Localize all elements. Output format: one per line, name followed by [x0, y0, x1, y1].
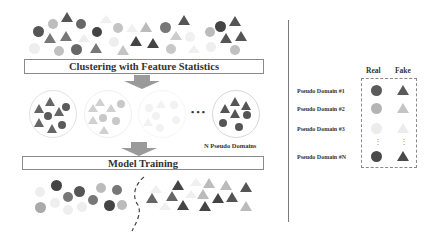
- fake-sample: [126, 24, 138, 32]
- fake-sample: [88, 116, 98, 124]
- real-sample: [104, 200, 115, 211]
- real-sample: [205, 27, 215, 37]
- real-sample: [71, 44, 82, 55]
- fake-sample: [78, 34, 90, 42]
- training-stage-label: Model Training: [108, 158, 178, 169]
- real-sample: [29, 43, 40, 54]
- real-sample: [152, 112, 160, 120]
- real-sample: [48, 19, 58, 29]
- fake-sample: [220, 104, 230, 113]
- real-sample: [156, 124, 164, 132]
- fake-sample-icon: [397, 151, 409, 161]
- fake-sample: [212, 193, 224, 203]
- real-sample: [96, 183, 106, 193]
- fake-sample: [230, 109, 240, 118]
- legend-row-label: Pseudo Domain #2: [297, 106, 345, 112]
- real-sample: [112, 117, 120, 125]
- real-sample: [63, 205, 73, 215]
- fake-sample: [106, 104, 116, 112]
- real-sample-icon: [371, 85, 382, 96]
- legend-col-real: Real: [366, 66, 381, 75]
- fake-sample: [240, 182, 252, 192]
- real-sample: [74, 186, 85, 197]
- real-sample: [113, 23, 123, 33]
- real-sample: [92, 27, 102, 37]
- real-sample: [33, 26, 44, 37]
- real-sample: [185, 32, 195, 42]
- fake-sample: [178, 15, 190, 25]
- real-sample: [145, 104, 153, 112]
- legend-vdots: ⋮: [374, 137, 382, 146]
- fake-sample-icon: [397, 85, 409, 95]
- real-sample-icon: [371, 103, 382, 114]
- fake-sample: [188, 45, 200, 53]
- training-stage-box: Model Training: [22, 156, 264, 170]
- real-sample: [166, 44, 176, 54]
- n-pseudo-domains-label: N Pseudo Domains: [204, 142, 256, 149]
- fake-sample: [229, 16, 241, 26]
- legend-row-label: Pseudo Domain #N: [297, 154, 346, 160]
- fake-sample: [240, 201, 252, 211]
- fake-sample: [197, 189, 209, 199]
- fake-sample: [156, 100, 166, 108]
- real-sample: [235, 123, 243, 131]
- real-sample: [58, 121, 66, 129]
- fake-sample: [45, 97, 55, 106]
- real-sample: [243, 111, 251, 119]
- decision-boundary: [128, 175, 148, 233]
- fake-sample: [117, 45, 129, 55]
- real-sample: [170, 101, 178, 109]
- fake-sample: [172, 180, 184, 190]
- legend-row-label: Pseudo Domain #1: [297, 88, 345, 94]
- real-sample: [99, 114, 107, 122]
- fake-sample: [143, 118, 153, 126]
- real-sample: [219, 119, 227, 127]
- fake-sample: [241, 101, 251, 110]
- real-sample: [51, 180, 62, 191]
- fake-sample: [203, 178, 215, 188]
- real-sample: [215, 21, 226, 32]
- fake-sample: [54, 107, 64, 116]
- down-arrow-icon: [124, 75, 160, 89]
- fake-sample: [185, 190, 197, 198]
- fake-sample: [90, 43, 102, 53]
- fake-sample: [150, 185, 162, 193]
- fake-sample: [170, 31, 182, 40]
- fake-sample: [61, 12, 73, 22]
- fake-sample-icon: [397, 103, 409, 113]
- real-sample: [63, 192, 73, 202]
- fake-sample: [235, 31, 247, 41]
- fake-sample: [159, 202, 171, 210]
- real-sample: [117, 200, 127, 210]
- fake-sample: [230, 97, 240, 106]
- clustering-stage-label: Clustering with Feature Statistics: [69, 61, 219, 72]
- real-sample-icon: [371, 123, 382, 134]
- fake-sample: [100, 15, 112, 23]
- real-sample: [230, 45, 240, 55]
- fake-sample: [34, 118, 44, 127]
- real-sample: [112, 185, 122, 195]
- real-sample: [172, 116, 180, 124]
- fake-sample: [199, 201, 211, 211]
- fake-sample: [44, 33, 56, 43]
- fake-sample-icon: [397, 123, 409, 133]
- real-sample: [50, 198, 60, 208]
- real-sample: [88, 195, 98, 205]
- down-arrow-icon: [121, 142, 157, 156]
- real-sample: [117, 100, 125, 108]
- fake-sample: [226, 192, 238, 202]
- real-sample: [54, 46, 64, 56]
- clustering-stage-box: Clustering with Feature Statistics: [24, 59, 264, 74]
- fake-sample: [88, 104, 98, 112]
- legend-col-fake: Fake: [395, 66, 411, 75]
- legend-vdots: ⋮: [400, 137, 408, 146]
- fake-sample: [47, 124, 57, 133]
- fake-sample: [140, 22, 152, 32]
- fake-sample: [99, 126, 109, 134]
- fake-sample: [130, 36, 142, 46]
- fake-sample: [190, 178, 202, 186]
- real-sample: [76, 19, 86, 29]
- real-sample: [77, 202, 87, 212]
- fake-sample: [220, 33, 232, 43]
- fake-sample: [147, 38, 159, 48]
